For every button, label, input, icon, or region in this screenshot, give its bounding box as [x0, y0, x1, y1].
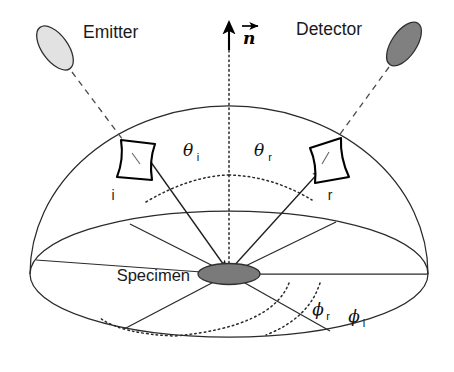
theta-i-symbol: θ — [183, 140, 193, 160]
phi-i-subscript: i — [363, 317, 365, 329]
theta-r-subscript: r — [268, 151, 272, 163]
azimuth-arcs — [100, 283, 320, 336]
brdf-geometry-svg: Emitter Detector Specimen n θ i θ r ϕ r … — [0, 0, 454, 372]
incident-ray-line — [148, 158, 226, 268]
theta-r-label: θ r — [254, 140, 272, 163]
patch-r-label: r — [328, 187, 333, 203]
emitter-label: Emitter — [83, 22, 139, 42]
specimen-label: Specimen — [117, 266, 190, 284]
specimen-disc-group[interactable] — [198, 264, 260, 285]
solid-angle-patch-i — [117, 140, 155, 180]
solid-angle-patch-r — [310, 138, 349, 183]
reflected-ray-line — [232, 171, 320, 268]
phi-r-symbol: ϕ — [312, 299, 324, 319]
detector-sight-line — [338, 67, 389, 137]
theta-r-symbol: θ — [254, 140, 264, 160]
theta-i-subscript: i — [197, 151, 199, 163]
theta-i-label: θ i — [183, 140, 199, 163]
reflected-ray — [232, 171, 320, 268]
patch-i-shape — [117, 140, 155, 180]
patch-r-shape — [310, 138, 349, 183]
theta-i-arc — [146, 175, 229, 202]
specimen-disc[interactable] — [198, 264, 260, 285]
phi-i-symbol: ϕ — [348, 306, 360, 326]
phi-r-subscript: r — [326, 310, 330, 322]
incident-ray — [148, 158, 226, 268]
normal-vector-label: n — [242, 26, 258, 48]
emitter-device[interactable] — [29, 20, 80, 77]
detector-device[interactable] — [380, 16, 429, 71]
emitter-sight-line — [72, 72, 123, 140]
normal-vector-symbol: n — [243, 28, 255, 48]
phi-i-label: ϕ i — [348, 306, 365, 329]
phi-r-label: ϕ r — [312, 299, 330, 322]
detector-label: Detector — [296, 19, 362, 39]
device-sight-lines — [72, 67, 389, 140]
theta-arcs — [146, 175, 312, 202]
detector-disc[interactable] — [380, 16, 429, 71]
emitter-disc[interactable] — [29, 20, 80, 77]
patch-i-label: i — [111, 187, 114, 203]
brdf-diagram-figure: Emitter Detector Specimen n θ i θ r ϕ r … — [0, 0, 454, 372]
theta-r-arc — [229, 175, 312, 200]
